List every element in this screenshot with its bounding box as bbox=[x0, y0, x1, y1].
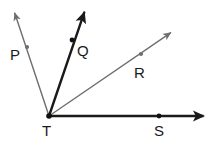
ray-tr-line bbox=[49, 33, 171, 116]
point-label-q: Q bbox=[77, 43, 89, 58]
point-s-marker bbox=[157, 114, 162, 119]
ray-tp-line bbox=[15, 13, 49, 116]
geometry-diagram-canvas: P Q R T S bbox=[0, 0, 221, 144]
point-label-p: P bbox=[10, 47, 20, 62]
point-label-r: R bbox=[134, 65, 145, 80]
ray-tq-line bbox=[49, 13, 84, 116]
angle-diagram-svg bbox=[0, 0, 221, 144]
point-label-s: S bbox=[154, 123, 164, 138]
point-p-marker bbox=[25, 45, 29, 49]
point-q-marker bbox=[70, 38, 75, 43]
point-r-marker bbox=[139, 52, 143, 56]
vertex-label-t: T bbox=[42, 123, 51, 138]
vertex-t-marker bbox=[46, 113, 52, 119]
